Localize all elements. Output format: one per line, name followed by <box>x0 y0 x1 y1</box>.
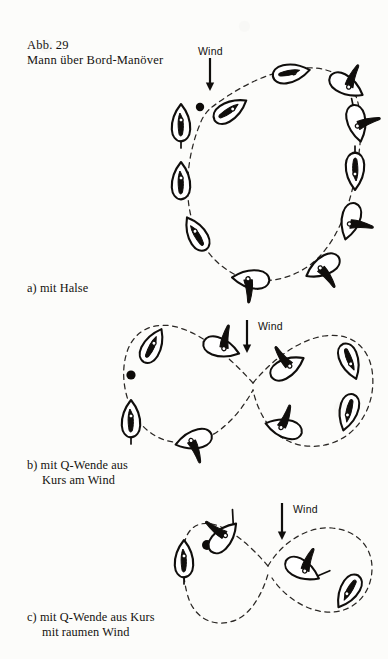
boat-a-8 <box>336 201 378 246</box>
boat-a-6 <box>343 94 385 144</box>
boat-b-1 <box>122 400 140 444</box>
wind-arrow-b <box>243 320 251 353</box>
diagram-c <box>175 502 372 623</box>
track-a <box>188 68 361 281</box>
wind-arrow-a <box>206 58 214 91</box>
man-overboard-marker-a <box>196 103 204 111</box>
boat-a-3 <box>210 93 252 128</box>
boat-b-3 <box>201 319 247 362</box>
track-c-right <box>268 528 372 612</box>
boat-a-1 <box>172 104 190 148</box>
boat-a-7 <box>346 146 364 190</box>
diagram-b <box>122 319 373 468</box>
man-overboard-marker-b <box>126 370 135 379</box>
boat-b-4 <box>173 426 218 468</box>
boat-b-2 <box>136 325 170 367</box>
boat-c-2 <box>193 502 248 558</box>
boat-b-7 <box>334 392 362 433</box>
boat-c-1 <box>175 540 193 584</box>
diagram-a <box>172 56 384 305</box>
boat-c-3 <box>282 540 336 590</box>
figure-artwork <box>0 0 388 659</box>
boat-a-9 <box>302 249 351 296</box>
boat-a-11 <box>179 213 214 255</box>
boat-c-4 <box>331 571 366 613</box>
wind-arrow-c <box>278 503 286 540</box>
boat-a-10 <box>230 268 270 304</box>
boat-a-2 <box>172 162 190 199</box>
boat-a-4 <box>271 61 311 86</box>
boat-b-8 <box>263 400 308 442</box>
boat-a-5 <box>326 56 375 103</box>
scanned-page: Abb. 29 Mann über Bord-Manöver a) mit Ha… <box>0 0 388 659</box>
boat-b-5 <box>259 337 308 384</box>
